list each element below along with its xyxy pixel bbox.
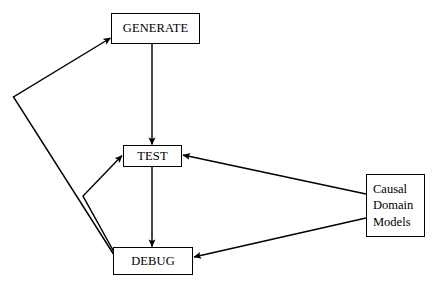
node-debug-label: DEBUG — [114, 254, 192, 268]
node-test-label: TEST — [124, 149, 181, 163]
node-causal-domain-models[interactable]: Causal Domain Models — [366, 174, 425, 237]
node-generate[interactable]: GENERATE — [111, 13, 200, 44]
edge-causal-to-test — [183, 155, 366, 194]
node-generate-label: GENERATE — [112, 21, 199, 35]
node-debug[interactable]: DEBUG — [113, 247, 193, 275]
edge-layer — [0, 0, 439, 290]
diagram-canvas: GENERATE TEST DEBUG Causal Domain Models — [0, 0, 439, 290]
node-test[interactable]: TEST — [123, 145, 182, 167]
edge-debug-to-generate — [14, 38, 117, 258]
node-causal-domain-models-label: Causal Domain Models — [373, 181, 424, 231]
edge-causal-to-debug — [194, 218, 366, 257]
